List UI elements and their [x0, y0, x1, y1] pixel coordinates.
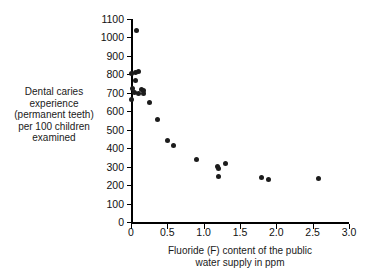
data-point — [141, 91, 146, 96]
y-axis-title-line-2: experience — [6, 98, 102, 110]
x-tick-label: 1.5 — [233, 227, 248, 238]
y-tick-label: 300 — [106, 161, 124, 172]
y-tick-mark — [127, 222, 132, 223]
scatter-plot-figure: Dental caries experience (permanent teet… — [0, 0, 372, 280]
y-tick-mark — [127, 167, 132, 168]
x-axis-title-line-1: Fluoride (F) content of the public — [131, 245, 349, 257]
y-axis-title: Dental caries experience (permanent teet… — [6, 86, 102, 144]
x-tick-label: 0.5 — [160, 227, 175, 238]
data-point — [266, 177, 271, 182]
y-tick-mark — [127, 19, 132, 20]
data-point — [133, 78, 138, 83]
data-point — [216, 174, 221, 179]
y-tick-label: 1000 — [101, 32, 124, 43]
data-point — [134, 28, 139, 33]
y-axis-title-line-1: Dental caries — [6, 86, 102, 98]
y-tick-label: 900 — [106, 51, 124, 62]
x-tick-label: 0 — [128, 227, 134, 238]
x-axis-title-line-2: water supply in ppm — [131, 257, 349, 269]
y-axis-line — [131, 19, 133, 224]
y-axis-title-line-4: per 100 children — [6, 121, 102, 133]
data-point — [129, 97, 134, 102]
x-tick-label: 2.5 — [305, 227, 320, 238]
x-tick-label: 1.0 — [196, 227, 211, 238]
y-tick-mark — [127, 204, 132, 205]
y-tick-mark — [127, 37, 132, 38]
y-tick-label: 200 — [106, 180, 124, 191]
data-point — [223, 161, 228, 166]
y-tick-mark — [127, 111, 132, 112]
y-tick-label: 800 — [106, 69, 124, 80]
y-tick-label: 1100 — [101, 14, 124, 25]
x-axis-title: Fluoride (F) content of the public water… — [131, 245, 349, 268]
data-point — [316, 176, 321, 181]
y-tick-label: 700 — [106, 88, 124, 99]
data-point — [147, 100, 152, 105]
y-tick-mark — [127, 185, 132, 186]
data-point — [259, 175, 264, 180]
y-tick-label: 500 — [106, 124, 124, 135]
y-axis-title-line-3: (permanent teeth) — [6, 109, 102, 121]
y-tick-label: 0 — [118, 217, 124, 228]
data-point — [155, 117, 160, 122]
data-point — [216, 166, 221, 171]
y-axis-title-line-5: examined — [6, 132, 102, 144]
data-point — [136, 69, 141, 74]
plot-area: 010020030040050060070080090010001100 00.… — [131, 19, 349, 224]
y-tick-label: 400 — [106, 143, 124, 154]
data-point — [194, 157, 199, 162]
data-point — [171, 143, 176, 148]
y-tick-mark — [127, 148, 132, 149]
x-tick-label: 2.0 — [269, 227, 284, 238]
data-point — [165, 138, 170, 143]
y-tick-mark — [127, 130, 132, 131]
y-tick-label: 600 — [106, 106, 124, 117]
y-tick-mark — [127, 56, 132, 57]
y-tick-label: 100 — [106, 198, 124, 209]
x-tick-label: 3.0 — [342, 227, 357, 238]
